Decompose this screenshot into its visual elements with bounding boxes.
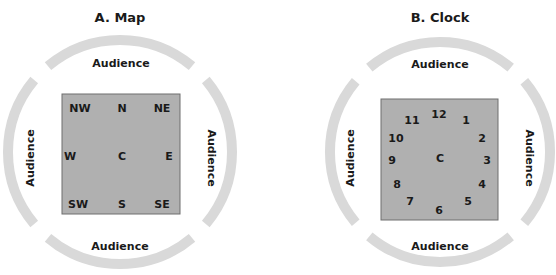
- panel-map-title: A. Map: [95, 10, 146, 25]
- panel-clock: B. Clock Audience Audience Audience Audi…: [330, 10, 550, 262]
- audience-label-top: Audience: [411, 58, 468, 71]
- audience-label-left: Audience: [24, 129, 37, 186]
- map-label-c: C: [118, 150, 126, 163]
- audience-label-right: Audience: [205, 129, 218, 186]
- audience-label-left: Audience: [344, 129, 357, 186]
- map-label-e: E: [165, 150, 173, 163]
- audience-label-right: Audience: [523, 129, 536, 186]
- clock-hour-5: 5: [464, 195, 472, 208]
- clock-hour-7: 7: [406, 195, 414, 208]
- map-label-ne: NE: [154, 102, 171, 115]
- audience-label-bottom: Audience: [411, 240, 468, 253]
- map-label-sw: SW: [68, 198, 88, 211]
- clock-hour-1: 1: [462, 114, 470, 127]
- clock-hour-3: 3: [483, 154, 491, 167]
- clock-hour-12: 12: [431, 108, 446, 121]
- diagram-canvas: A. Map Audience Audience Audience Audien…: [0, 0, 556, 275]
- map-label-nw: NW: [69, 102, 90, 115]
- clock-hour-4: 4: [478, 178, 486, 191]
- audience-label-bottom: Audience: [91, 240, 148, 253]
- map-label-s: S: [118, 198, 126, 211]
- clock-hour-6: 6: [435, 204, 443, 217]
- clock-hour-9: 9: [388, 154, 396, 167]
- clock-hour-11: 11: [404, 114, 419, 127]
- map-label-se: SE: [154, 198, 169, 211]
- panel-map: A. Map Audience Audience Audience Audien…: [8, 10, 232, 264]
- map-label-n: N: [117, 102, 126, 115]
- map-label-w: W: [64, 150, 76, 163]
- clock-hour-8: 8: [393, 178, 401, 191]
- audience-label-top: Audience: [92, 57, 149, 70]
- panel-clock-title: B. Clock: [411, 10, 470, 25]
- clock-hour-2: 2: [478, 132, 486, 145]
- clock-hour-10: 10: [388, 132, 404, 145]
- clock-label-c: C: [436, 152, 444, 165]
